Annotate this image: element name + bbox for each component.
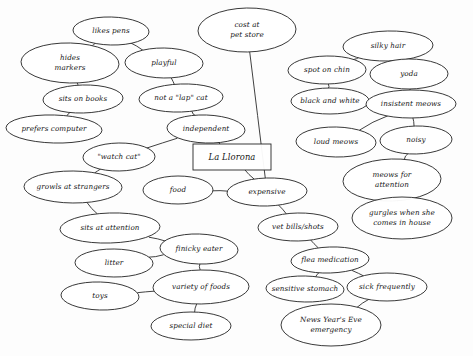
node-label: sensitive stomach [272,284,339,293]
node-label: finicky eater [174,244,222,253]
node-variety-of-foods[interactable]: variety of foods [153,269,249,304]
node-label: variety of foods [172,282,230,291]
node-label: not a "lap" cat [154,93,207,102]
edge-insistent-meows-to-noisy [413,118,414,126]
mindmap-canvas: likes penshidesmarkersplayfulcost atpet … [0,0,473,356]
edge-sick-frequently-to-news-years-eve [357,299,368,307]
edge-spot-on-chin-to-black-and-white [328,84,329,88]
node-label: sits on books [59,94,108,103]
node-yoda[interactable]: yoda [370,59,448,90]
node-label: independent [183,124,230,133]
node-cost-at-pet-store[interactable]: cost atpet store [198,7,297,53]
node-sick-frequently[interactable]: sick frequently [347,273,427,301]
node-growls-at-strangers[interactable]: growls at strangers [24,171,122,204]
node-independent[interactable]: independent [167,114,246,145]
edge-flea-medication-to-sick-frequently [352,271,363,276]
node-gurgles-when-she-comes[interactable]: gurgles when shecomes in house [352,197,452,239]
node-label: insistent meows [381,99,441,108]
edge-watch-cat-to-growls-at-strangers [95,169,101,173]
node-food[interactable]: food [143,176,213,204]
node-likes-pens[interactable]: likes pens [73,16,150,46]
node-noisy[interactable]: noisy [380,125,453,155]
node-insistent-meows[interactable]: insistent meows [366,90,456,118]
node-label: growls at strangers [36,182,109,191]
node-loud-meows[interactable]: loud meows [296,126,377,158]
node-spot-on-chin[interactable]: spot on chin [288,55,366,84]
node-label: silky hair [371,41,406,50]
node-sits-on-books[interactable]: sits on books [43,84,124,114]
edge-litter-to-finicky-eater [149,255,163,257]
node-label: La Llorona [208,152,256,162]
node-litter[interactable]: litter [75,249,153,278]
node-label: loud meows [314,137,359,146]
edge-insistent-meows-to-loud-meows [360,116,388,130]
edge-independent-to-watch-cat [147,138,177,148]
node-sensitive-stomach[interactable]: sensitive stomach [266,275,345,303]
node-playful[interactable]: playful [125,47,203,78]
edge-likes-pens-to-hides-markers [93,44,95,46]
node-meows-for-attention[interactable]: meows forattention [342,157,441,202]
node-watch-cat[interactable]: "watch cat" [83,143,155,172]
node-label: expensive [249,187,286,196]
node-label: prefers computer [21,124,87,133]
node-flea-medication[interactable]: flea medication [291,246,370,275]
edge-expensive-to-vet-bills-shots [279,205,286,213]
edge-growls-at-strangers-to-sits-at-attention [87,202,97,213]
node-black-and-white[interactable]: black and white [291,88,369,114]
node-label: yoda [399,69,418,78]
node-prefers-computer[interactable]: prefers computer [6,114,103,145]
edge-playful-to-not-a-lap-cat [171,78,174,84]
node-label: playful [151,58,177,67]
node-label: special diet [170,321,213,330]
node-finicky-eater[interactable]: finicky eater [160,233,239,266]
node-label: food [169,185,187,194]
edge-likes-pens-to-playful [131,43,143,50]
edge-toys-to-variety-of-foods [138,291,155,292]
edge-la-llorona-to-expensive [245,170,254,179]
node-label: sits at attention [80,223,139,232]
node-la-llorona[interactable]: La Llorona [193,144,271,170]
node-label: spot on chin [304,65,350,74]
node-label: likes pens [92,26,130,35]
node-expensive[interactable]: expensive [227,177,308,207]
edge-variety-of-foods-to-special-diet [195,304,197,312]
edge-noisy-to-meows-for-attention [404,154,408,160]
node-label: noisy [406,135,426,144]
node-hides-markers[interactable]: hidesmarkers [20,42,119,85]
node-label: litter [105,258,124,267]
node-label: flea medication [300,255,359,264]
edge-food-to-expensive [213,191,227,192]
node-label: gurgles when shecomes in house [369,208,435,226]
node-label: cost atpet store [230,20,264,38]
node-label: vet bills/shots [272,222,324,231]
node-sits-at-attention[interactable]: sits at attention [60,211,161,244]
node-vet-bills-shots[interactable]: vet bills/shots [258,212,338,241]
node-not-a-lap-cat[interactable]: not a "lap" cat [139,83,224,114]
node-label: toys [92,291,108,300]
node-label: "watch cat" [97,152,140,161]
edge-sits-at-attention-to-finicky-eater [149,237,165,241]
node-label: black and white [300,96,359,105]
node-news-years-eve[interactable]: News Year's Eveemergency [281,304,381,346]
node-label: sick frequently [359,282,416,291]
node-toys[interactable]: toys [61,281,140,311]
node-silky-hair[interactable]: silky hair [343,30,434,62]
nodes-layer: likes penshidesmarkersplayfulcost atpet … [6,7,456,346]
edge-vet-bills-shots-to-flea-medication [311,240,318,247]
node-label: meows forattention [373,170,412,188]
mindmap-svg: likes penshidesmarkersplayfulcost atpet … [0,0,473,356]
edge-finicky-eater-to-variety-of-foods [199,264,200,270]
node-special-diet[interactable]: special diet [151,312,231,340]
